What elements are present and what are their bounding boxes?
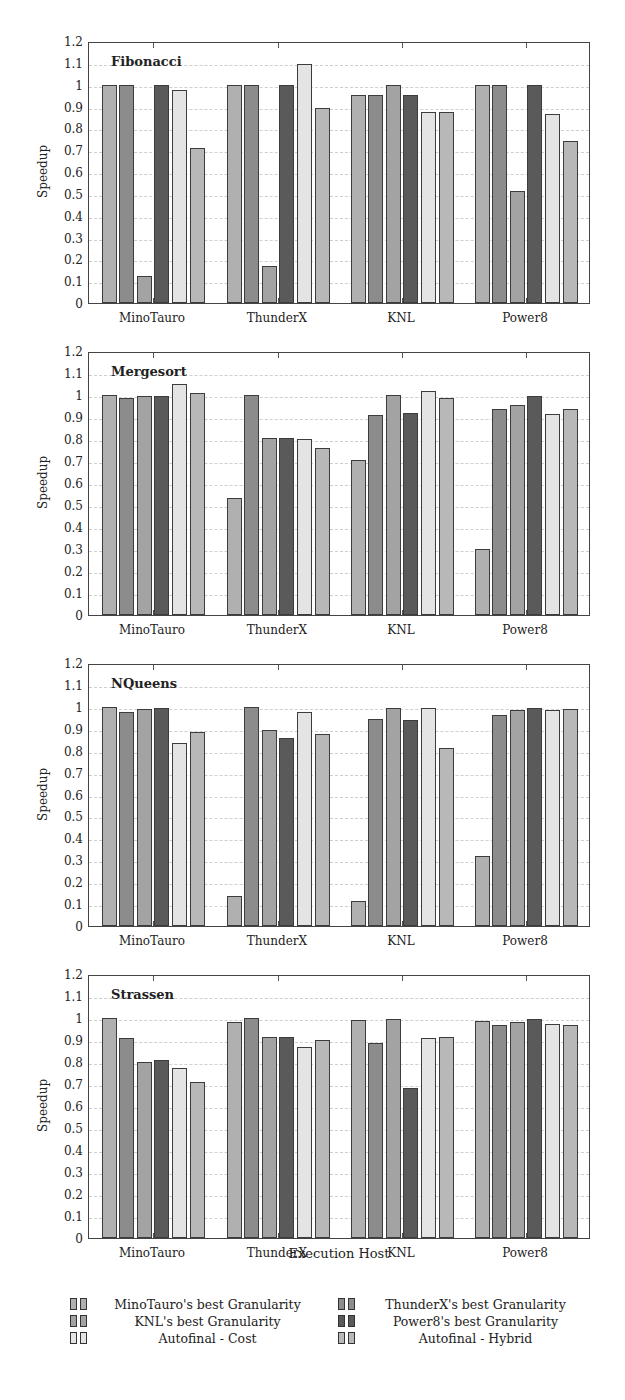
y-tick-label: 0.1	[43, 276, 83, 288]
legend-item-knl: KNL's best Granularity	[70, 1313, 325, 1329]
bar	[563, 1025, 578, 1238]
x-tick-mark	[153, 976, 154, 981]
bar	[510, 710, 525, 926]
y-axis-label: Speedup	[36, 145, 50, 198]
x-tick-mark	[402, 665, 403, 670]
bar	[244, 85, 259, 303]
y-tick-label: 0	[43, 298, 83, 310]
legend-item-autofinal-cost: Autofinal - Cost	[70, 1330, 325, 1346]
y-tick-label: 0.3	[43, 544, 83, 556]
bar	[190, 1082, 205, 1238]
bar	[154, 1060, 169, 1238]
y-tick-label: 0	[43, 921, 83, 933]
y-tick-label: 0.8	[43, 746, 83, 758]
x-tick-mark	[153, 1233, 154, 1238]
bar	[119, 712, 134, 926]
bar	[510, 191, 525, 303]
legend-label: Autofinal - Cost	[90, 1331, 325, 1346]
legend-swatch-icon	[348, 1315, 355, 1327]
bar	[439, 398, 454, 615]
bar	[102, 707, 117, 926]
bar	[315, 108, 330, 303]
legend-swatch-icon	[70, 1315, 77, 1327]
x-tick-mark	[402, 298, 403, 303]
y-tick-label: 0.8	[43, 1057, 83, 1069]
legend-swatch-icon	[338, 1298, 345, 1310]
x-tick-mark	[153, 921, 154, 926]
x-category-label: ThunderX	[227, 623, 327, 637]
bar	[475, 85, 490, 303]
x-tick-mark	[526, 665, 527, 670]
bar	[297, 1047, 312, 1238]
x-tick-mark	[526, 976, 527, 981]
bar	[403, 95, 418, 304]
y-tick-label: 1.2	[43, 36, 83, 48]
x-tick-mark	[402, 43, 403, 48]
y-tick-label: 0.8	[43, 434, 83, 446]
bar	[227, 1022, 242, 1238]
bar	[297, 64, 312, 303]
x-tick-mark	[526, 43, 527, 48]
bar	[190, 393, 205, 615]
bar	[172, 384, 187, 615]
legend-swatch-icon	[80, 1332, 87, 1344]
plot-area-strassen: Strassen	[88, 975, 590, 1239]
bar	[527, 396, 542, 615]
bar	[368, 415, 383, 615]
x-category-label: MinoTauro	[102, 934, 202, 948]
x-tick-mark	[278, 43, 279, 48]
y-tick-label: 0.3	[43, 1167, 83, 1179]
bar	[475, 549, 490, 615]
bar	[439, 112, 454, 303]
y-tick-label: 0.9	[43, 412, 83, 424]
bar	[279, 438, 294, 615]
panel-title: Fibonacci	[111, 54, 182, 69]
y-tick-label: 0.4	[43, 1145, 83, 1157]
legend-swatch-icon	[80, 1298, 87, 1310]
bar	[475, 1021, 490, 1238]
x-tick-mark	[278, 610, 279, 615]
bar	[351, 901, 366, 926]
x-axis-title: Execution Host	[88, 1246, 590, 1261]
bar	[244, 1018, 259, 1238]
y-tick-label: 0.2	[43, 877, 83, 889]
bar	[262, 730, 277, 926]
bar	[527, 1019, 542, 1238]
bar	[545, 114, 560, 303]
bar	[279, 738, 294, 926]
plot-area-mergesort: Mergesort	[88, 352, 590, 616]
y-tick-label: 0.9	[43, 102, 83, 114]
x-tick-mark	[278, 976, 279, 981]
bar	[137, 276, 152, 303]
bar	[545, 1024, 560, 1239]
bar	[421, 112, 436, 303]
bar	[403, 413, 418, 615]
bar	[190, 148, 205, 303]
bar	[563, 141, 578, 303]
y-tick-label: 0.9	[43, 724, 83, 736]
bar	[172, 90, 187, 303]
bar	[351, 460, 366, 615]
x-tick-mark	[153, 610, 154, 615]
bar	[137, 709, 152, 926]
bar	[368, 95, 383, 304]
bar	[297, 439, 312, 615]
bar	[190, 732, 205, 926]
y-tick-label: 1	[43, 1013, 83, 1025]
bar	[421, 1038, 436, 1238]
y-tick-label: 0.4	[43, 833, 83, 845]
bar	[510, 405, 525, 615]
panel-title: Mergesort	[111, 364, 187, 379]
bar	[154, 708, 169, 926]
x-category-label: KNL	[351, 623, 451, 637]
y-tick-label: 0.1	[43, 899, 83, 911]
bar	[244, 395, 259, 615]
legend-item-minotauro: MinoTauro's best Granularity	[70, 1296, 325, 1312]
x-category-label: MinoTauro	[102, 623, 202, 637]
legend-label: Power8's best Granularity	[358, 1314, 593, 1329]
bar	[227, 498, 242, 615]
bar	[421, 708, 436, 926]
legend-swatch-icon	[80, 1315, 87, 1327]
bar	[137, 396, 152, 615]
x-tick-mark	[526, 921, 527, 926]
